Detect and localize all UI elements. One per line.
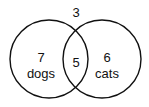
intersection-count: 5 bbox=[72, 55, 79, 70]
cats-only-count: 6 bbox=[103, 50, 110, 65]
cats-label: cats bbox=[95, 66, 119, 81]
dogs-label: dogs bbox=[27, 66, 56, 81]
outside-count: 3 bbox=[72, 5, 79, 20]
venn-diagram: 3 7 dogs 5 6 cats bbox=[0, 0, 149, 107]
dogs-only-count: 7 bbox=[37, 50, 44, 65]
